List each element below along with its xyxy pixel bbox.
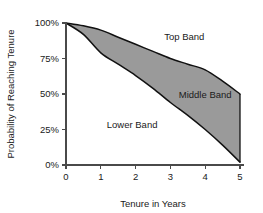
middle-band-label: Middle Band — [179, 89, 232, 100]
y-tick-label: 50% — [40, 88, 60, 99]
y-tick-label: 100% — [35, 17, 60, 28]
x-axis-title: Tenure in Years — [120, 198, 186, 209]
x-tick-label: 4 — [203, 171, 208, 182]
y-tick-label: 25% — [40, 124, 60, 135]
lower-band-label: Lower Band — [107, 119, 158, 130]
x-tick-label: 3 — [168, 171, 173, 182]
x-tick-label: 5 — [237, 171, 242, 182]
x-tick-label: 1 — [98, 171, 103, 182]
y-tick-label: 75% — [40, 53, 60, 64]
probability-of-reaching-tenure-chart: 0%25%50%75%100% 012345 Tenure in Years P… — [0, 0, 263, 213]
y-tick-label: 0% — [45, 159, 59, 170]
y-axis-title: Probability of Reaching Tenure — [5, 29, 16, 158]
x-tick-label: 2 — [133, 171, 138, 182]
x-axis-ticks: 012345 — [63, 165, 242, 182]
top-band-label: Top Band — [164, 31, 204, 42]
y-axis-ticks: 0%25%50%75%100% — [35, 17, 66, 170]
chart-container: 0%25%50%75%100% 012345 Tenure in Years P… — [0, 0, 263, 213]
x-tick-label: 0 — [63, 171, 68, 182]
